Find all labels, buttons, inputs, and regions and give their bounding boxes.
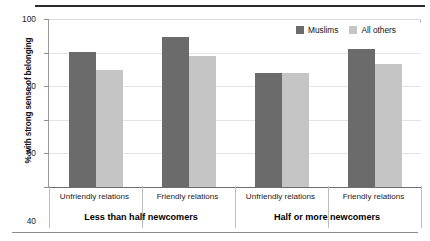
x-cell-label-0: Unfriendly relations <box>48 192 141 201</box>
group-label-0: Less than half newcomers <box>48 212 234 222</box>
bar-all-others-2 <box>282 73 309 187</box>
top-rule <box>35 5 425 7</box>
bar-muslims-2 <box>255 73 282 187</box>
group-label-1: Half or more newcomers <box>234 212 420 222</box>
y-tick-label-40: 40 <box>27 216 36 226</box>
x-cell-label-2: Unfriendly relations <box>234 192 327 201</box>
chart-legend: Muslims All others <box>296 25 396 35</box>
legend-label-muslims: Muslims <box>308 25 338 35</box>
x-cell-label-3: Friendly relations <box>327 192 420 201</box>
bar-all-others-0 <box>96 70 123 187</box>
bar-muslims-0 <box>69 52 96 187</box>
legend-swatch-muslims <box>296 26 304 34</box>
y-tick-label-60: 60 <box>27 148 36 158</box>
bar-all-others-3 <box>375 64 402 187</box>
group-edge-divider-4 <box>421 186 422 228</box>
bottom-rule <box>12 232 418 233</box>
legend-swatch-all-others <box>349 26 357 34</box>
plot-area: 100806040200 <box>48 19 421 187</box>
bar-all-others-1 <box>189 56 216 187</box>
y-tick-label-80: 80 <box>27 81 36 91</box>
chart-figure: % with strong sense of belonging 1008060… <box>0 0 430 241</box>
legend-item-all-others: All others <box>349 25 396 35</box>
legend-label-all-others: All others <box>361 25 396 35</box>
bar-series-layer <box>49 19 421 187</box>
x-cell-label-1: Friendly relations <box>141 192 234 201</box>
legend-item-muslims: Muslims <box>296 25 338 35</box>
y-axis-title: % with strong sense of belonging <box>24 11 33 191</box>
bar-muslims-1 <box>162 37 189 187</box>
bar-muslims-3 <box>348 49 375 187</box>
y-tick-label-100: 100 <box>22 14 36 24</box>
